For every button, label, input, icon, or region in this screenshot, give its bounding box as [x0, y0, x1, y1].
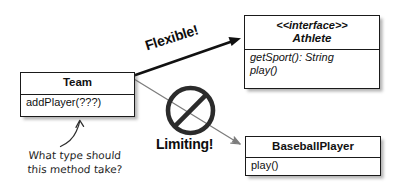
uml-class-baseballplayer[interactable]: BaseballPlayer play() — [245, 136, 381, 176]
handwritten-note-line-1: What type should — [28, 148, 124, 162]
no-entry-icon — [168, 88, 213, 133]
team-class-name: Team — [63, 76, 92, 90]
athlete-header: <<interface>> Athlete — [245, 16, 379, 50]
team-member-addplayer: addPlayer(???) — [26, 96, 130, 109]
team-header: Team — [21, 73, 134, 95]
handwritten-note: What type should this method take? — [27, 148, 124, 176]
team-members: addPlayer(???) — [21, 95, 134, 116]
curved-arrow-icon — [61, 120, 84, 146]
handwritten-note-line-2: this method take? — [27, 162, 123, 176]
athlete-stereotype: <<interface>> — [276, 19, 348, 32]
uml-interface-athlete[interactable]: <<interface>> Athlete getSport(): String… — [244, 15, 380, 89]
baseballplayer-member-play: play() — [251, 159, 376, 172]
athlete-members: getSport(): String play() — [245, 50, 379, 88]
athlete-class-name: Athlete — [293, 32, 332, 46]
athlete-member-play: play() — [250, 64, 375, 77]
limiting-label: Limiting! — [156, 136, 213, 152]
uml-class-team[interactable]: Team addPlayer(???) — [20, 72, 135, 117]
baseballplayer-header: BaseballPlayer — [246, 137, 380, 158]
baseballplayer-members: play() — [246, 158, 380, 175]
baseballplayer-class-name: BaseballPlayer — [272, 140, 354, 154]
athlete-member-getsport: getSport(): String — [250, 51, 375, 64]
